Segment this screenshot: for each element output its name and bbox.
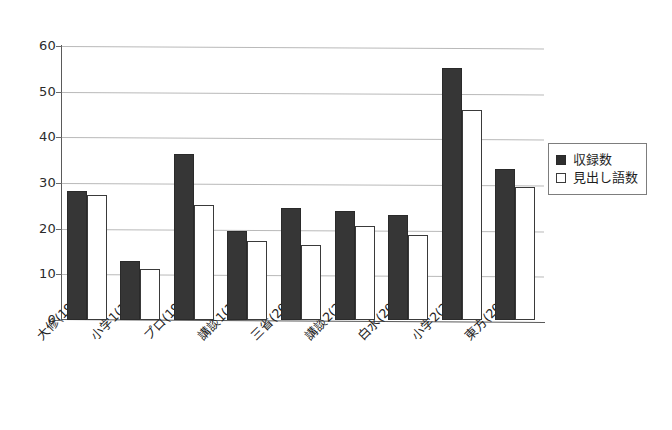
bar-headword-count	[301, 245, 321, 320]
bar-recorded-count	[388, 215, 408, 320]
chart-legend: 収録数 見出し語数	[548, 143, 647, 195]
y-axis-tick-50	[56, 92, 62, 93]
bar-headword-count	[140, 269, 160, 320]
legend-item-0: 収録数	[556, 152, 638, 167]
y-axis-tick-label: 60	[12, 39, 56, 52]
bar-recorded-count	[335, 211, 355, 320]
y-axis-tick-label: 0	[12, 313, 56, 326]
legend-swatch-open-square-icon	[556, 173, 566, 183]
bar-chart: 0102030405060 大修(1987)小学1(1992)プロ(1998)講…	[0, 0, 672, 430]
y-axis-labels: 0102030405060	[0, 0, 56, 430]
y-axis-tick-label: 30	[12, 176, 56, 189]
y-axis-tick-40	[56, 137, 62, 138]
y-axis-tick-label: 40	[12, 130, 56, 143]
bar-recorded-count	[120, 261, 140, 320]
bar-recorded-count	[281, 208, 301, 320]
bar-headword-count	[515, 187, 535, 320]
y-axis-tick-20	[56, 229, 62, 230]
gridline-60	[62, 46, 544, 50]
y-axis-tick-60	[56, 46, 62, 47]
legend-item-label: 収録数	[573, 152, 612, 167]
bar-recorded-count	[227, 231, 247, 320]
y-axis-tick-label: 50	[12, 85, 56, 98]
plot-area	[62, 46, 544, 320]
legend-item-label: 見出し語数	[573, 170, 638, 185]
y-axis-tick-30	[56, 183, 62, 184]
bar-headword-count	[247, 241, 267, 321]
bar-recorded-count	[442, 68, 462, 320]
bar-recorded-count	[495, 169, 515, 320]
gridline-50	[62, 92, 544, 96]
bar-headword-count	[462, 110, 482, 320]
bar-headword-count	[194, 205, 214, 321]
bar-headword-count	[355, 226, 375, 321]
legend-swatch-filled-square-icon	[556, 155, 566, 165]
y-axis-tick-10	[56, 274, 62, 275]
bar-recorded-count	[67, 191, 87, 320]
bar-recorded-count	[174, 154, 194, 320]
y-axis-tick-label: 20	[12, 222, 56, 235]
y-axis-tick-0	[56, 320, 62, 321]
bar-headword-count	[87, 195, 107, 320]
y-axis-tick-label: 10	[12, 267, 56, 280]
legend-item-1: 見出し語数	[556, 170, 638, 185]
bar-headword-count	[408, 235, 428, 320]
